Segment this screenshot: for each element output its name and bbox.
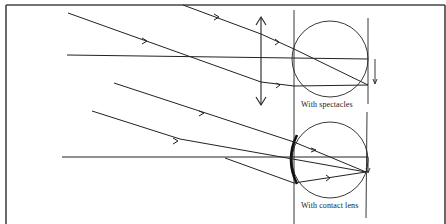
ray-arrow-icons-lower <box>173 111 330 181</box>
panel-spectacles <box>67 5 377 105</box>
rays-lower <box>62 83 366 183</box>
ray-arrow-icons-upper <box>142 14 280 88</box>
eye-circle-lower <box>292 122 368 198</box>
spectacle-lens-icon <box>256 17 266 105</box>
image-arrow-icon-upper <box>373 59 377 84</box>
ray-diagram <box>0 0 446 224</box>
rays-upper <box>67 5 368 86</box>
frame <box>6 5 445 224</box>
eye-vertical-lines <box>294 10 368 224</box>
label-with-spectacles: With spectacles <box>301 100 353 109</box>
label-with-contact-lens: With contact lens <box>301 201 358 210</box>
